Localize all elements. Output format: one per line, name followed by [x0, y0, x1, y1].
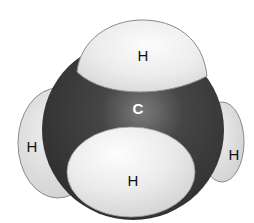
label-h-right: H [229, 146, 240, 163]
molecule-diagram: H C H H H [0, 0, 254, 223]
methane-space-filling-model: H C H H H [0, 0, 254, 223]
label-h-left: H [27, 138, 38, 155]
label-c-center: C [133, 100, 144, 117]
label-h-top: H [138, 47, 149, 64]
label-h-bottom: H [128, 172, 139, 189]
